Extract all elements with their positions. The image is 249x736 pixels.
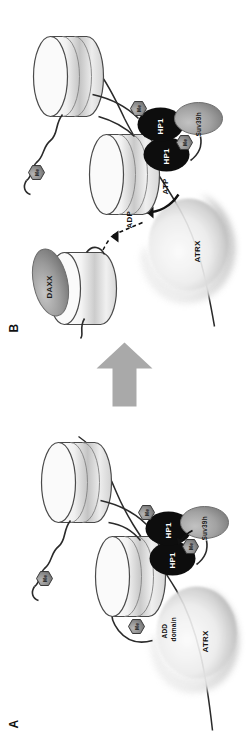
free-histone-tail-a xyxy=(196,540,207,564)
nucleosome-2-a xyxy=(41,442,111,522)
atrx-protein-b xyxy=(140,194,235,303)
atp-label: ATP xyxy=(160,178,169,194)
adp-label: ADP xyxy=(124,211,133,229)
hp1-left-label-a: HP1 xyxy=(167,552,176,568)
methyl-mark-icon: Me xyxy=(138,505,154,519)
svg-text:Me: Me xyxy=(134,622,140,629)
methyl-mark-icon: Me xyxy=(128,619,144,633)
svg-text:Me: Me xyxy=(182,138,188,145)
panel-b-graphic: Me Me Me xyxy=(0,0,249,340)
panel-a: A xyxy=(0,406,249,736)
svg-text:Me: Me xyxy=(42,574,48,581)
panel-a-letter: A xyxy=(6,719,20,728)
atrx-protein-a xyxy=(150,586,238,692)
panel-b-letter: B xyxy=(6,323,20,332)
panel-a-graphic: Me xyxy=(0,406,249,736)
svg-text:Me: Me xyxy=(34,168,40,175)
figure-canvas: A xyxy=(0,0,249,736)
daxx-label-b: DAXX xyxy=(44,275,53,298)
hp1-right-label-b: HP1 xyxy=(155,118,164,134)
svg-text:Me: Me xyxy=(188,542,194,549)
svg-text:Me: Me xyxy=(136,104,142,111)
transition-arrow-shape xyxy=(96,342,152,406)
add-domain-label-line1: ADD xyxy=(160,623,167,638)
panel-b: B xyxy=(0,0,249,340)
figure-frame: A xyxy=(0,0,249,736)
nucleosome-2-b xyxy=(33,36,103,116)
atrx-label-b: ATRX xyxy=(192,240,201,262)
hp1-left-label-b: HP1 xyxy=(161,148,170,164)
hp1-right-label-a: HP1 xyxy=(163,522,172,538)
free-histone-tail-b xyxy=(190,136,201,160)
add-domain-label-line2: domain xyxy=(169,617,176,641)
suv39h-label-b: Suv39h xyxy=(194,112,201,136)
suv39h-label-a: Suv39h xyxy=(200,516,207,540)
svg-text:Me: Me xyxy=(144,508,150,515)
transition-arrow xyxy=(92,340,156,406)
atrx-label-a: ATRX xyxy=(200,630,209,652)
